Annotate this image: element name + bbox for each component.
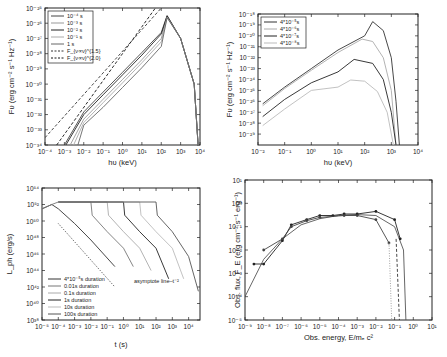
y-axis-label: L_ph (erg/s) — [5, 233, 14, 274]
x-tick-label: 10⁻⁷ — [276, 323, 290, 330]
panel-c: 10⁻⁵10⁻⁴10⁻³10⁻²10⁻¹10⁰10¹10²10³10⁴10³⁸1… — [5, 185, 200, 350]
data-marker — [393, 218, 396, 221]
y-tick-label: 10⁴² — [27, 284, 40, 291]
series-line — [42, 202, 133, 267]
x-tick-label: 10² — [151, 323, 161, 330]
y-tick-label: 10⁻²⁷ — [239, 109, 255, 116]
y-tick-label: 10⁴⁰ — [26, 300, 39, 307]
y-axis-label: Fυ (erg cm⁻² s⁻¹ Hz⁻¹) — [225, 41, 234, 117]
data-marker — [343, 214, 346, 217]
y-tick-label: 10⁻²⁵ — [26, 5, 42, 12]
y-tick-label: 10³⁸ — [27, 317, 39, 324]
legend-entry: 10⁻⁴ s — [67, 13, 83, 19]
data-marker — [318, 216, 321, 219]
series-line — [42, 205, 115, 267]
x-tick-label: 10¹ — [427, 323, 437, 330]
x-tick-label: 10⁻⁴ — [51, 323, 65, 330]
x-tick-label: 10⁻¹ — [100, 323, 114, 330]
x-tick-label: 10⁻⁴ — [38, 148, 52, 155]
data-marker — [356, 214, 359, 217]
x-axis-label: Obs. energy, E/mₑ c² — [304, 333, 373, 342]
y-tick-label: 10⁻²⁰ — [239, 32, 255, 39]
legend-entry: 100s duration — [64, 311, 97, 317]
x-tick-label: 10³ — [168, 323, 178, 330]
legend-entry: 10⁻² s — [67, 27, 82, 33]
y-tick-label: 10⁻²⁶ — [26, 20, 42, 27]
y-tick-label: 10⁻¹⁹ — [239, 21, 255, 28]
data-marker — [375, 218, 378, 221]
legend-entry: 10⁻³ s — [67, 20, 82, 26]
asymptote-annotation: asymptote line–t⁻² — [134, 278, 179, 284]
x-tick-label: 10⁻¹ — [96, 148, 110, 155]
panel-d: 10⁻⁹10⁻⁸10⁻⁷10⁻⁶10⁻⁵10⁻⁴10⁻³10⁻²10⁻¹10⁰1… — [228, 177, 438, 343]
y-tick-label: 10⁻²⁵ — [239, 87, 255, 94]
legend-entry: 1 s — [67, 41, 75, 47]
x-tick-label: 10⁰ — [408, 323, 418, 330]
series-line — [264, 216, 389, 251]
series-line — [58, 202, 183, 279]
legend-entry: 0.01s duration — [64, 283, 99, 289]
x-tick-label: 10⁻⁵ — [35, 323, 49, 330]
y-tick-label: 10⁻¹⁸ — [239, 11, 255, 18]
x-tick-label: 10³ — [176, 148, 186, 155]
y-tick-label: 10⁴⁸ — [26, 234, 39, 241]
x-tick-label: 10⁻⁶ — [294, 323, 308, 330]
y-tick-label: 10⁵² — [27, 201, 40, 208]
y-axis-label: Obs. flux, F_E (erg cm⁻² s⁻¹ erg⁻¹) — [233, 192, 242, 308]
x-tick-label: 10⁴ — [413, 148, 423, 155]
y-axis-label: Fυ (erg cm⁻² s⁻¹ Hz⁻¹) — [7, 38, 16, 114]
data-marker — [399, 237, 402, 240]
series-line — [396, 239, 399, 320]
legend-entry: 4*10⁻⁵s duration — [64, 276, 105, 282]
x-tick-label: 10⁻³ — [68, 323, 82, 330]
legend-entry: F_{ν∝ν}^{2.0} — [67, 55, 101, 61]
x-tick-label: 10¹ — [333, 148, 343, 155]
series-line — [254, 211, 400, 264]
y-tick-label: 10⁻²⁷ — [26, 35, 42, 42]
x-tick-label: 10² — [157, 148, 167, 155]
x-tick-label: 10⁻⁹ — [238, 323, 252, 330]
x-tick-label: 10⁻³ — [350, 323, 364, 330]
y-tick-label: 10⁻²⁹ — [26, 65, 42, 72]
y-tick-label: 10⁻²⁴ — [239, 76, 255, 83]
legend-entry: F_{ν∝ν}^{1.5} — [67, 48, 101, 54]
x-tick-label: 10⁻² — [369, 323, 383, 330]
series-line — [263, 39, 396, 145]
y-tick-label: 10⁻⁵ — [228, 317, 242, 324]
x-tick-label: 10⁰ — [118, 323, 128, 330]
x-tick-label: 10⁻⁴ — [331, 323, 345, 330]
x-tick-label: 10⁻² — [251, 148, 265, 155]
y-tick-label: 10⁵⁴ — [26, 185, 39, 192]
y-tick-label: 10⁻³² — [26, 111, 42, 118]
data-marker — [253, 263, 256, 266]
y-tick-label: 10⁻³⁴ — [26, 142, 42, 149]
x-tick-label: 10⁰ — [306, 148, 316, 155]
y-tick-label: 10⁻³³ — [26, 126, 42, 133]
x-tick-label: 10⁻² — [84, 323, 98, 330]
figure: 10⁻⁴10⁻³10⁻²10⁻¹10⁰10¹10²10³10⁴10⁻³⁴10⁻³… — [0, 0, 447, 357]
x-tick-label: 10⁻¹ — [388, 323, 402, 330]
x-tick-label: 10¹ — [137, 148, 147, 155]
x-tick-label: 10⁻⁵ — [313, 323, 327, 330]
series-line — [263, 59, 396, 145]
data-marker — [262, 263, 265, 266]
y-tick-label: 10⁵⁰ — [26, 218, 39, 225]
data-marker — [290, 225, 293, 228]
y-tick-label: 10⁴⁴ — [26, 267, 39, 274]
x-tick-label: 10⁻³ — [58, 148, 72, 155]
series-line — [389, 243, 392, 320]
x-tick-label: 10⁻¹ — [278, 148, 292, 155]
legend-entry: 4*10⁻⁸s — [280, 40, 300, 46]
panel-a: 10⁻⁴10⁻³10⁻²10⁻¹10⁰10¹10²10³10⁴10⁻³⁴10⁻³… — [7, 5, 205, 168]
y-tick-label: 10⁻²² — [239, 54, 255, 61]
x-axis-label: hυ (keV) — [108, 158, 137, 167]
legend-entry: 1s duration — [64, 297, 91, 303]
x-tick-label: 10⁻² — [77, 148, 91, 155]
x-tick-label: 10¹ — [135, 323, 145, 330]
series-line — [58, 202, 168, 279]
x-axis-label: hυ (keV) — [324, 158, 353, 167]
x-tick-label: 10⁴ — [195, 148, 205, 155]
y-tick-label: 10⁻²¹ — [239, 43, 255, 50]
data-marker — [305, 219, 308, 222]
legend-entry: 10s duration — [64, 304, 94, 310]
